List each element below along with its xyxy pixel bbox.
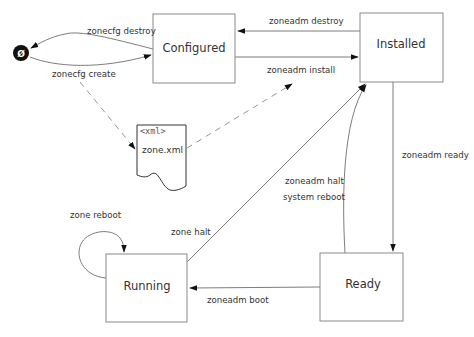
document-name: zone.xml	[142, 145, 183, 155]
state-configured: Configured	[153, 14, 235, 83]
document-tag: <xml>	[140, 126, 166, 136]
label-zoneadm-ready: zoneadm ready	[402, 150, 469, 160]
null-state: Ø	[13, 45, 29, 61]
label-system-reboot: system reboot	[283, 192, 345, 202]
edge-create-to-xml	[80, 82, 135, 149]
label-zonecfg-destroy: zonecfg destroy	[87, 26, 156, 36]
edge-zonecfg-create	[30, 55, 151, 65]
state-installed: Installed	[360, 13, 443, 82]
state-diagram: Ø Configured Installed Running Ready <xm…	[0, 0, 474, 337]
label-zoneadm-install: zoneadm install	[267, 65, 335, 75]
null-state-symbol: Ø	[17, 49, 25, 59]
edge-zone-halt	[187, 84, 365, 262]
state-running-label: Running	[123, 279, 170, 293]
label-zonecfg-create: zonecfg create	[52, 69, 116, 79]
zone-xml-document: <xml> zone.xml	[137, 125, 186, 190]
label-zone-reboot: zone reboot	[70, 210, 122, 220]
state-running: Running	[106, 254, 187, 322]
state-installed-label: Installed	[377, 37, 426, 51]
label-zoneadm-halt: zoneadm halt	[285, 176, 344, 186]
state-ready: Ready	[320, 253, 403, 321]
edge-ready-to-installed	[344, 85, 366, 253]
edge-zoneadm-boot	[190, 287, 320, 288]
label-zone-halt: zone halt	[171, 227, 211, 237]
edge-xml-to-install	[187, 84, 292, 148]
state-configured-label: Configured	[162, 41, 225, 55]
label-zoneadm-boot: zoneadm boot	[207, 295, 269, 305]
label-zoneadm-destroy: zoneadm destroy	[269, 16, 344, 26]
state-ready-label: Ready	[345, 277, 381, 291]
